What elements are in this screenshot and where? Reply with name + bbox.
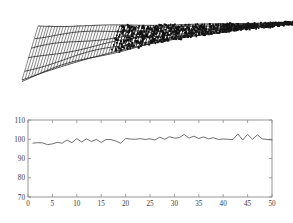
mesh-speckle — [127, 35, 128, 36]
x-tick-label: 30 — [171, 200, 179, 208]
mesh-speckle — [191, 29, 192, 30]
mesh-speckle — [264, 27, 265, 28]
mesh-speckle — [135, 27, 136, 28]
mesh-speckle — [153, 33, 154, 34]
surface-mesh-group — [22, 21, 293, 82]
mesh-speckle — [186, 31, 187, 32]
mesh-speckle — [250, 27, 251, 28]
mesh-speckle — [171, 28, 172, 29]
mesh-rib-line — [41, 26, 55, 73]
mesh-speckle — [164, 34, 165, 35]
mesh-rib-line — [96, 25, 105, 56]
mesh-speckle — [204, 33, 205, 34]
mesh-rib-line — [38, 25, 52, 74]
y-tick-label: 110 — [14, 117, 25, 125]
mesh-speckle — [140, 36, 141, 37]
mesh-speckle — [124, 42, 125, 43]
x-tick-label: 15 — [98, 200, 106, 208]
mesh-speckle — [128, 26, 129, 27]
mesh-speckle — [139, 26, 140, 27]
surface-plot-panel — [0, 0, 293, 108]
mesh-speckle — [130, 27, 131, 28]
mesh-speckle — [157, 26, 158, 27]
mesh-speckle — [131, 30, 132, 31]
figure-container: 708090100110 05101520253035404550 — [0, 0, 293, 223]
mesh-speckle — [119, 48, 120, 49]
mesh-speckle — [240, 27, 241, 28]
mesh-speckle — [220, 24, 221, 25]
x-tick-label: 40 — [220, 200, 228, 208]
mesh-speckle — [291, 24, 292, 25]
mesh-speckle — [116, 49, 117, 50]
mesh-speckle — [177, 28, 178, 29]
plot-axes: 708090100110 05101520253035404550 — [14, 117, 276, 208]
mesh-speckle — [131, 28, 132, 29]
mesh-speckle — [155, 30, 156, 31]
y-axis-ticks: 708090100110 — [14, 117, 272, 202]
mesh-speckle — [272, 26, 273, 27]
y-tick-label: 80 — [18, 174, 26, 182]
mesh-speckle — [123, 46, 124, 47]
x-tick-label: 25 — [146, 200, 154, 208]
mesh-speckle — [225, 24, 226, 25]
x-tick-label: 50 — [268, 200, 276, 208]
mesh-rib-line — [84, 25, 94, 60]
mesh-speckle — [154, 35, 155, 36]
mesh-speckle — [178, 32, 179, 33]
mesh-speckle — [213, 25, 214, 26]
mesh-speckle — [131, 46, 132, 47]
mesh-speckle — [185, 29, 186, 30]
mesh-speckle — [121, 26, 122, 27]
mesh-speckle — [203, 26, 204, 27]
mesh-speckle — [142, 35, 143, 36]
mesh-speckle — [148, 28, 149, 29]
mesh-speckle — [124, 47, 125, 48]
surface-plot-svg — [0, 0, 293, 108]
mesh-speckle — [123, 27, 124, 28]
x-tick-label: 45 — [244, 200, 252, 208]
mesh-speckle — [146, 31, 147, 32]
mesh-speckle — [130, 41, 131, 42]
mesh-speckle — [228, 24, 229, 25]
mesh-speckle — [148, 27, 149, 28]
mesh-speckle — [164, 37, 165, 38]
line-plot-panel: 708090100110 05101520253035404550 — [0, 108, 293, 223]
mesh-speckle — [216, 24, 217, 25]
mesh-speckle — [145, 36, 146, 37]
mesh-speckle — [116, 39, 117, 40]
mesh-speckle — [191, 35, 192, 36]
mesh-speckle — [194, 28, 195, 29]
mesh-speckle — [164, 24, 165, 25]
mesh-speckle — [221, 27, 222, 28]
line-plot-svg: 708090100110 05101520253035404550 — [0, 108, 293, 223]
mesh-speckle — [127, 44, 128, 45]
mesh-speckle — [121, 43, 122, 44]
mesh-speckle — [122, 32, 123, 33]
mesh-speckle — [187, 28, 188, 29]
mesh-speckle — [127, 32, 128, 33]
axes-box — [28, 120, 272, 197]
mesh-speckle — [172, 31, 173, 32]
mesh-speckle — [165, 29, 166, 30]
mesh-speckle — [156, 26, 157, 27]
mesh-speckle — [199, 28, 200, 29]
x-tick-label: 5 — [51, 200, 55, 208]
mesh-speckle — [234, 28, 235, 29]
mesh-speckle — [174, 28, 175, 29]
mesh-speckle — [132, 42, 133, 43]
mesh-speckle — [116, 35, 117, 36]
mesh-speckle — [146, 34, 147, 35]
mesh-speckle — [154, 27, 155, 28]
y-tick-label: 100 — [14, 136, 25, 144]
mesh-speckle — [144, 38, 145, 39]
mesh-speckle — [127, 40, 128, 41]
y-tick-label: 70 — [18, 194, 26, 202]
mesh-speckle — [119, 43, 120, 44]
mesh-speckle — [144, 31, 145, 32]
mesh-speckle — [181, 39, 182, 40]
mesh-speckle — [176, 35, 177, 36]
mesh-speckle — [159, 33, 160, 34]
mesh-speckle — [159, 24, 160, 25]
x-tick-label: 10 — [73, 200, 81, 208]
mesh-speckle — [131, 36, 132, 37]
